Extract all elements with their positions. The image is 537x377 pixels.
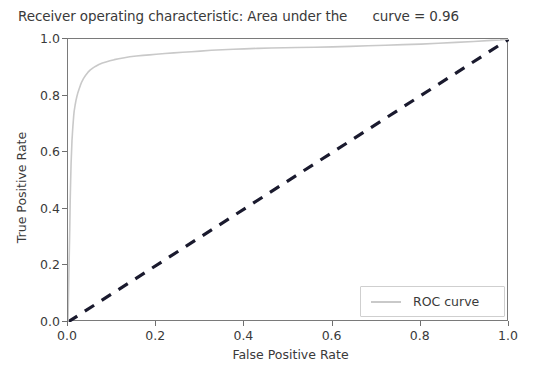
x-tick-label: 0.2 <box>133 328 177 343</box>
y-tick-label: 1.0 <box>20 31 60 46</box>
y-tick-label: 0.0 <box>20 314 60 329</box>
plot-svg <box>68 39 509 322</box>
roc-curve-legend-swatch <box>371 301 401 303</box>
x-tick-label: 0.4 <box>221 328 265 343</box>
plot-area <box>67 38 508 321</box>
x-tick-label: 0.0 <box>45 328 89 343</box>
x-axis-label-text: False Positive Rate <box>232 347 348 362</box>
roc-curve-legend-label: ROC curve <box>413 294 479 309</box>
y-tick-label: 0.8 <box>20 87 60 102</box>
x-tick-label: 1.0 <box>486 328 530 343</box>
x-tick-label: 0.8 <box>398 328 442 343</box>
chart-legend: ROC curve <box>360 286 505 317</box>
chance-diagonal-line <box>68 39 509 322</box>
roc-chart-figure: Receiver operating characteristic: Area … <box>0 0 537 377</box>
x-axis-label: False Positive Rate <box>0 347 537 362</box>
chart-title: Receiver operating characteristic: Area … <box>18 8 533 24</box>
y-axis-label: True Positive Rate <box>14 108 29 268</box>
x-tick-label: 0.6 <box>310 328 354 343</box>
